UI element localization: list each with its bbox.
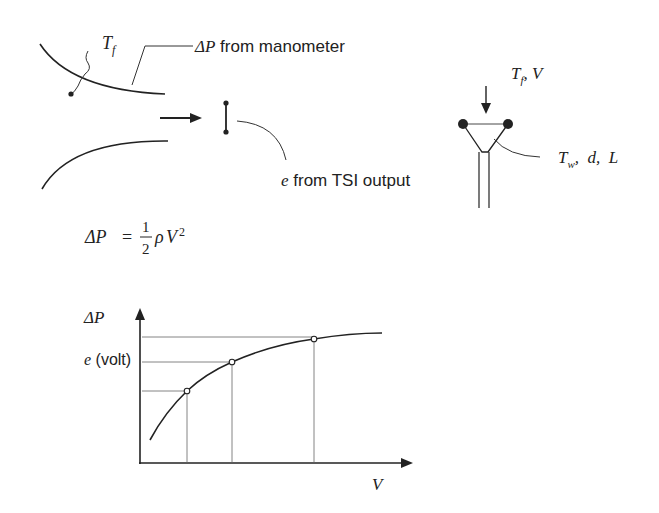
equation-lhs: ΔP xyxy=(84,227,107,247)
calibration-point-3-icon xyxy=(311,336,317,342)
x-axis-arrow-icon xyxy=(401,458,413,468)
projection-lines xyxy=(142,337,314,463)
equation-numerator: 1 xyxy=(142,219,150,235)
calibration-curve xyxy=(150,333,382,440)
thermocouple-bead-icon xyxy=(68,91,73,96)
equation-equals: = xyxy=(122,227,132,247)
dp-from-manometer-label: ΔP from manometer xyxy=(194,37,345,56)
equation-rho: ρ xyxy=(154,227,164,247)
wire-end-bottom-icon xyxy=(223,129,228,134)
calibration-point-2-icon xyxy=(229,359,235,365)
tf-v-label: Tf, V xyxy=(511,64,545,86)
wire-leader-line xyxy=(494,139,540,157)
wire-end-top-icon xyxy=(223,100,228,105)
lower-nozzle-wall xyxy=(42,141,168,189)
thermocouple-lead xyxy=(71,51,89,94)
calibration-chart: ΔP e (volt) V xyxy=(83,308,413,494)
manometer-leader-line xyxy=(132,46,193,85)
dynamic-pressure-equation: ΔP = 1 2 ρ V 2 xyxy=(84,219,185,257)
y-axis-label-dp: ΔP xyxy=(83,308,104,327)
flow-arrow-icon xyxy=(190,113,202,123)
equation-denominator: 2 xyxy=(142,241,150,257)
equation-exponent: 2 xyxy=(179,225,185,239)
diagram-canvas: Tf ΔP from manometer e from TSI output T… xyxy=(0,0,659,513)
y-axis-label-e: e (volt) xyxy=(84,351,131,368)
prong-left xyxy=(463,124,485,152)
prong-tip-right-icon xyxy=(503,119,513,129)
e-from-tsi-label: e from TSI output xyxy=(281,171,410,190)
tf-label: Tf xyxy=(102,33,117,57)
x-axis-label-v: V xyxy=(372,475,385,494)
y-axis-arrow-icon xyxy=(135,308,145,320)
tsi-leader-line xyxy=(237,121,286,160)
prong-tip-left-icon xyxy=(458,119,468,129)
calibration-point-1-icon xyxy=(184,388,190,394)
flow-direction-arrow-icon xyxy=(481,103,491,114)
tw-d-l-label: Tw, d, L xyxy=(558,148,618,170)
equation-v: V xyxy=(166,227,179,247)
